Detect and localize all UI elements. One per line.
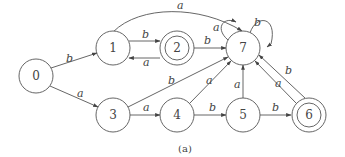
state-3: 3 [96, 98, 130, 132]
edge-1-7 [113, 12, 242, 32]
edge-1-2-label: b [142, 28, 149, 41]
state-2-label: 2 [173, 41, 181, 55]
automaton-diagram: b a b a a b a b a b b a b [0, 0, 345, 157]
edge-6-7-a-label: a [275, 77, 282, 90]
edge-0-1 [51, 53, 97, 68]
edge-1-7-label: a [177, 0, 184, 12]
state-1-label: 1 [109, 41, 117, 55]
edge-2-7-label: b [204, 34, 211, 47]
state-0: 0 [19, 59, 53, 93]
edge-5-6-label: b [272, 101, 279, 114]
edge-3-4-label: a [143, 101, 150, 114]
edge-6-7-b-label: b [285, 64, 292, 77]
state-5-label: 5 [239, 108, 247, 122]
state-3-label: 3 [109, 108, 117, 122]
figure-caption: (a) [178, 143, 192, 154]
edge-0-3 [50, 86, 98, 107]
edge-7-7-b-label: b [254, 16, 261, 29]
state-6-accepting: 6 [292, 98, 326, 132]
edge-7-7-a-label: a [213, 21, 220, 34]
state-7-label: 7 [239, 41, 247, 55]
edge-4-7-label: a [206, 74, 213, 87]
edge-2-1-label: a [143, 56, 150, 69]
state-5: 5 [226, 98, 260, 132]
state-2-accepting: 2 [160, 31, 194, 65]
edge-5-7-label: a [234, 78, 241, 91]
state-0-label: 0 [32, 69, 40, 83]
state-6-label: 6 [305, 108, 313, 122]
edge-0-3-label: a [77, 87, 84, 100]
edge-6-7-b [259, 55, 305, 98]
state-1: 1 [96, 31, 130, 65]
state-4: 4 [160, 98, 194, 132]
edge-3-7-label: b [168, 74, 175, 87]
state-4-label: 4 [173, 108, 181, 122]
edge-4-5-label: b [209, 101, 216, 114]
edge-0-1-label: b [66, 52, 73, 65]
state-7: 7 [226, 31, 260, 65]
